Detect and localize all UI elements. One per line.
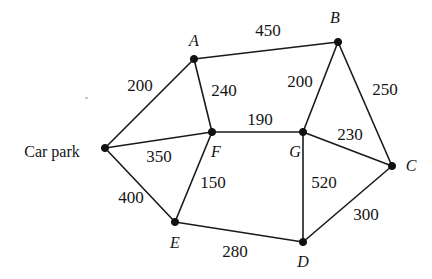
network-diagram: 200450240200250350400190150230520300280C… xyxy=(0,0,432,279)
node-G[interactable] xyxy=(299,128,306,135)
graph-canvas xyxy=(0,0,432,279)
edge-carpark-A xyxy=(105,59,194,148)
edge-B-C xyxy=(338,42,392,166)
edge-carpark-E xyxy=(105,148,175,222)
edge-B-G xyxy=(303,42,338,132)
scan-speck xyxy=(85,97,88,99)
node-A[interactable] xyxy=(190,55,197,62)
node-E[interactable] xyxy=(171,218,178,225)
edges-layer xyxy=(105,42,392,242)
edge-C-D xyxy=(303,166,392,242)
node-D[interactable] xyxy=(299,238,306,245)
edge-F-E xyxy=(175,132,212,222)
edge-carpark-F xyxy=(105,132,212,148)
node-B[interactable] xyxy=(334,38,341,45)
node-C[interactable] xyxy=(388,162,395,169)
edge-A-F xyxy=(194,59,212,132)
node-F[interactable] xyxy=(208,128,215,135)
edge-A-B xyxy=(194,42,338,59)
edge-E-D xyxy=(175,222,303,242)
node-carpark[interactable] xyxy=(101,144,108,151)
